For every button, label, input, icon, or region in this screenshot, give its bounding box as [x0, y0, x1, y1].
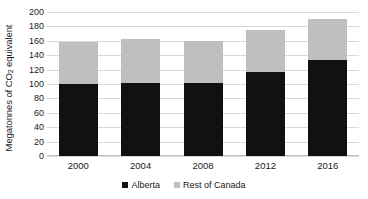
x-axis-tick-label: 2000 [47, 159, 109, 173]
y-axis-tick-label: 140 [16, 51, 44, 60]
stacked-bar-chart: Megatonnes of CO2 equivalent 02040608010… [0, 0, 368, 199]
bar-slot-2000 [47, 12, 109, 156]
x-axis-tick-label: 2016 [297, 159, 359, 173]
y-axis-title-text-before: Megatonnes of CO [3, 73, 14, 151]
bar-segment-rest-of-canada[interactable] [308, 19, 347, 60]
y-axis-title: Megatonnes of CO2 equivalent [2, 8, 16, 168]
x-axis-tick-label: 2008 [172, 159, 234, 173]
legend-label: Alberta [131, 180, 160, 190]
stacked-bar[interactable] [246, 30, 285, 156]
stacked-bar[interactable] [184, 41, 223, 156]
bar-group [47, 12, 359, 156]
y-axis-tick-label: 120 [16, 65, 44, 74]
bar-segment-alberta[interactable] [121, 83, 160, 156]
legend-item-alberta[interactable]: Alberta [122, 180, 160, 190]
stacked-bar[interactable] [59, 42, 98, 156]
legend-label: Rest of Canada [183, 180, 246, 190]
x-axis-tick-label: 2004 [109, 159, 171, 173]
y-axis-tick-label: 200 [16, 8, 44, 17]
bar-slot-2016 [297, 12, 359, 156]
legend-item-rest[interactable]: Rest of Canada [174, 180, 246, 190]
bar-segment-alberta[interactable] [308, 60, 347, 156]
bar-slot-2004 [109, 12, 171, 156]
bar-segment-rest-of-canada[interactable] [121, 39, 160, 83]
legend-swatch-icon [122, 182, 128, 188]
y-axis-tick-label: 80 [16, 94, 44, 103]
y-axis-tick-label: 160 [16, 36, 44, 45]
y-axis-title-text-after: equivalent [3, 25, 14, 70]
y-axis-tick-label: 60 [16, 108, 44, 117]
stacked-bar[interactable] [121, 39, 160, 156]
bar-segment-rest-of-canada[interactable] [59, 42, 98, 84]
y-axis-tick-label: 180 [16, 22, 44, 31]
bar-segment-alberta[interactable] [246, 72, 285, 156]
y-axis-tick-labels: 020406080100120140160180200 [16, 12, 44, 156]
bar-slot-2012 [234, 12, 296, 156]
y-axis-tick-label: 100 [16, 80, 44, 89]
bar-slot-2008 [172, 12, 234, 156]
y-axis-tick-label: 40 [16, 123, 44, 132]
y-axis-title-subscript: 2 [7, 69, 14, 73]
x-axis-tick-labels: 20002004200820122016 [47, 159, 359, 173]
bar-segment-alberta[interactable] [184, 83, 223, 156]
bar-segment-rest-of-canada[interactable] [246, 30, 285, 72]
bar-segment-alberta[interactable] [59, 84, 98, 156]
stacked-bar[interactable] [308, 19, 347, 156]
plot-area [47, 12, 359, 156]
bar-segment-rest-of-canada[interactable] [184, 41, 223, 83]
chart-legend: AlbertaRest of Canada [0, 180, 368, 190]
y-axis-tick-label: 20 [16, 137, 44, 146]
gridline [47, 156, 359, 157]
legend-swatch-icon [174, 182, 180, 188]
y-axis-tick-label: 0 [16, 152, 44, 161]
x-axis-tick-label: 2012 [234, 159, 296, 173]
